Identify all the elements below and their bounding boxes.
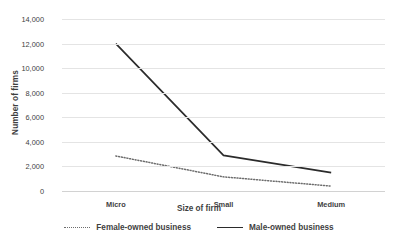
legend-label-male: Male-owned business (249, 223, 334, 232)
y-tick-label: 12,000 (0, 39, 44, 48)
y-tick-label: 8,000 (0, 88, 44, 97)
gridline (62, 142, 385, 143)
series-layer (62, 19, 385, 191)
y-tick-label: 2,000 (0, 162, 44, 171)
gridline (62, 19, 385, 20)
y-tick-label: 0 (0, 187, 44, 196)
solid-line-swatch-icon (217, 227, 243, 228)
line-chart: Number of firms 02,0004,0006,0008,00010,… (0, 0, 398, 245)
y-tick-label: 10,000 (0, 64, 44, 73)
legend-item-female[interactable]: Female-owned business (64, 223, 191, 232)
x-axis-title: Size of firm (0, 204, 398, 213)
gridline (62, 166, 385, 167)
series-line (116, 156, 331, 186)
gridline (62, 44, 385, 45)
legend-item-male[interactable]: Male-owned business (217, 223, 334, 232)
chart-legend: Female-owned business Male-owned busines… (0, 223, 398, 232)
gridline (62, 93, 385, 94)
gridline (62, 191, 385, 192)
gridline (62, 117, 385, 118)
plot-area: 02,0004,0006,0008,00010,00012,00014,000M… (62, 19, 385, 191)
legend-label-female: Female-owned business (96, 223, 191, 232)
dotted-line-swatch-icon (64, 227, 90, 228)
series-line (116, 44, 331, 173)
y-tick-label: 14,000 (0, 15, 44, 24)
y-tick-label: 6,000 (0, 113, 44, 122)
y-tick-label: 4,000 (0, 137, 44, 146)
gridline (62, 68, 385, 69)
